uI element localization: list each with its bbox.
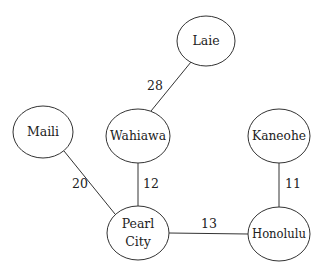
node-label: Maili [27, 124, 59, 139]
node-pearl-city: Pearl City [107, 206, 169, 260]
edge-weight-kaneohe-honolulu: 11 [285, 176, 301, 191]
node-honolulu: Honolulu [248, 207, 310, 261]
edge-weight-laie-wahiawa: 28 [147, 78, 163, 93]
node-label: Wahiawa [110, 128, 167, 143]
node-label: Honolulu [252, 226, 306, 241]
node-label: Laie [192, 33, 219, 48]
node-label-line1: Pearl [122, 216, 155, 231]
node-kaneohe: Kaneohe [248, 109, 310, 163]
edge-weight-wahiawa-pearl-city: 12 [143, 176, 159, 191]
node-shape [107, 206, 169, 260]
node-label: Kaneohe [252, 128, 306, 143]
graph-diagram: 28 20 12 11 13 Laie Maili Wahiawa Kaneoh… [0, 0, 325, 271]
node-laie: Laie [177, 16, 235, 66]
node-wahiawa: Wahiawa [106, 109, 170, 163]
node-label-line2: City [125, 234, 152, 249]
edge-weight-pearl-city-honolulu: 13 [201, 216, 217, 231]
edge-weight-maili-pearl-city: 20 [72, 176, 88, 191]
edge-pearl-city-honolulu [169, 233, 248, 234]
node-maili: Maili [13, 106, 73, 158]
